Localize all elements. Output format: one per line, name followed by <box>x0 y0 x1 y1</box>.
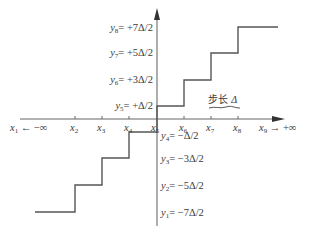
x-label-7: x7 <box>205 122 215 135</box>
y-label-1: y1= −7Δ/2 <box>160 207 204 220</box>
x-axis-labels: x1 ← −∞ x2 x3 x4 x5 x6 x7 x8 x9 → +∞ <box>9 122 296 135</box>
step-size-underline <box>209 106 240 108</box>
y-level-labels-negative: y4= −Δ/2 y3= −3Δ/2 y2= −5Δ/2 y1= −7Δ/2 <box>160 130 204 220</box>
x-label-8: x8 <box>232 122 242 135</box>
y-axis-arrow-icon <box>154 8 160 20</box>
x-label-1: x1 ← −∞ <box>9 122 47 135</box>
x-label-9: x9 → +∞ <box>258 122 296 135</box>
y-label-6: y6= +3Δ/2 <box>109 74 153 87</box>
quantizer-diagram: x1 ← −∞ x2 x3 x4 x5 x6 x7 x8 x9 → +∞ y8=… <box>0 0 313 233</box>
x-label-4: x4 <box>123 122 133 135</box>
y-label-7: y7= +5Δ/2 <box>109 47 153 60</box>
step-size-text: 步长 Δ <box>208 94 237 105</box>
y-label-8: y8= +7Δ/2 <box>109 22 153 35</box>
x-label-2: x2 <box>69 122 79 135</box>
y-label-3: y3= −3Δ/2 <box>160 153 204 166</box>
y-label-4: y4= −Δ/2 <box>160 130 199 143</box>
step-size-label: 步长 Δ <box>208 94 240 108</box>
x-label-3: x3 <box>96 122 106 135</box>
y-label-2: y2= −5Δ/2 <box>160 180 204 193</box>
x-label-5: x5 <box>150 122 160 135</box>
y-level-labels-positive: y8= +7Δ/2 y7= +5Δ/2 y6= +3Δ/2 y5= +Δ/2 <box>109 22 153 113</box>
y-label-5: y5= +Δ/2 <box>114 100 153 113</box>
